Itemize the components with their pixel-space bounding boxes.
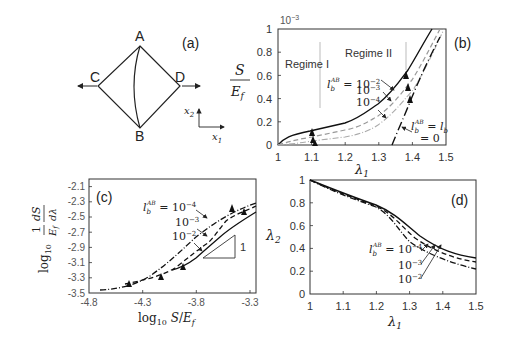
svg-text:0.2: 0.2	[290, 265, 305, 277]
panel-c-ann-1e-2: 10−2	[172, 230, 196, 243]
svg-text:1: 1	[30, 226, 43, 233]
svg-text:dS: dS	[30, 206, 43, 221]
panel-d-label: (d)	[451, 192, 468, 208]
svg-text:0: 0	[299, 288, 305, 300]
svg-text:0: 0	[266, 139, 272, 151]
panel-b-xlabel: λ1	[354, 162, 369, 179]
panel-b-ann-1e-4: 10−4	[356, 96, 381, 109]
panel-d-ann-1e-4: lbAB = 10−4	[369, 241, 423, 258]
svg-text:1.5: 1.5	[438, 151, 453, 163]
panel-b-chart: 0 0.2 0.4 0.6 0.8 1 1 1.1 1.2 1.3 1.4 1.…	[230, 14, 471, 179]
node-d-label: D	[175, 69, 185, 85]
node-b-label: B	[135, 128, 144, 144]
svg-text:1.2: 1.2	[369, 300, 384, 312]
node-c-label: C	[90, 69, 100, 85]
panel-d-xticks: 1 1.1 1.2 1.3 1.4 1.5	[307, 300, 484, 312]
svg-text:dλ: dλ	[47, 208, 58, 221]
panel-b-ylabel-num: S	[235, 62, 245, 78]
panel-b-scale-label: 10−3	[280, 14, 299, 26]
svg-text:-2.3: -2.3	[68, 196, 86, 207]
panel-b-ann-zero-2: = 0	[420, 132, 440, 145]
panel-a-label: (a)	[182, 35, 199, 51]
svg-text:-3.8: -3.8	[188, 297, 206, 308]
axis-x2-label: x2	[184, 105, 195, 119]
panel-d-xlabel: λ1	[387, 314, 402, 331]
svg-text:-3.3: -3.3	[241, 297, 259, 308]
svg-text:0.8: 0.8	[290, 197, 305, 209]
regime-1-label: Regime I	[285, 58, 329, 70]
panel-c-yticks: -2.1 -2.3 -2.5 -2.7 -2.9 -3.1 -3.3 -3.5	[68, 181, 86, 299]
panel-d-ylabel: λ2	[265, 227, 281, 245]
panel-c-xlabel: log10 S/Ef	[138, 311, 197, 327]
svg-text:1: 1	[307, 300, 313, 312]
svg-text:-2.9: -2.9	[68, 242, 86, 253]
slope-label: 1	[240, 241, 246, 253]
svg-text:1.4: 1.4	[435, 300, 450, 312]
panel-d-ann-1e-2: 10−2	[398, 273, 422, 286]
node-a-label: A	[135, 28, 145, 44]
svg-text:Ef: Ef	[47, 225, 60, 237]
panel-c-ylabel: log10 1 Ef dS dλ	[30, 205, 60, 273]
svg-text:-3.1: -3.1	[68, 257, 86, 268]
svg-text:0.6: 0.6	[290, 220, 305, 232]
svg-text:0.4: 0.4	[290, 242, 305, 254]
svg-text:0.8: 0.8	[257, 46, 272, 58]
svg-text:1: 1	[299, 174, 305, 186]
panel-c-ann-1e-3: 10−3	[175, 216, 199, 229]
svg-text:0.6: 0.6	[257, 70, 272, 82]
svg-text:1.1: 1.1	[336, 300, 351, 312]
panel-b-yticks: 0 0.2 0.4 0.6 0.8 1	[257, 23, 272, 151]
svg-text:-2.7: -2.7	[68, 227, 86, 238]
svg-text:1.3: 1.3	[371, 151, 386, 163]
svg-text:-4.3: -4.3	[134, 297, 152, 308]
svg-text:1.5: 1.5	[468, 300, 483, 312]
svg-text:log10: log10	[37, 244, 53, 273]
panel-d-ann-1e-3: 10−3	[398, 259, 422, 272]
svg-text:-2.1: -2.1	[68, 181, 86, 192]
svg-text:1.3: 1.3	[402, 300, 417, 312]
panel-c-chart: -2.1 -2.3 -2.5 -2.7 -2.9 -3.1 -3.3 -3.5 …	[30, 179, 259, 327]
panel-b-ylabel-den: Ef	[230, 84, 246, 101]
axis-x1-label: x1	[212, 131, 222, 145]
svg-text:0.2: 0.2	[257, 116, 272, 128]
svg-text:-2.5: -2.5	[68, 211, 86, 222]
svg-text:1.1: 1.1	[304, 151, 319, 163]
panel-a-diagram: A B C D (a) x2 x1	[78, 28, 224, 145]
svg-text:0.4: 0.4	[257, 93, 272, 105]
panel-b-label: (b)	[454, 35, 471, 51]
panel-d-chart: 0 0.2 0.4 0.6 0.8 1 1 1.1 1.2 1.3 1.4 1.…	[265, 174, 484, 331]
panel-c-ann-1e-4: lbAB = 10−4	[143, 199, 197, 216]
panel-d-yticks: 0 0.2 0.4 0.6 0.8 1	[290, 174, 305, 300]
panel-b-xticks: 1 1.1 1.2 1.3 1.4 1.5	[275, 151, 454, 163]
svg-text:1: 1	[275, 151, 281, 163]
panel-c-label: (c)	[96, 189, 112, 205]
svg-text:1.2: 1.2	[338, 151, 353, 163]
svg-text:1.4: 1.4	[405, 151, 420, 163]
svg-text:1: 1	[266, 23, 272, 35]
svg-text:-4.8: -4.8	[80, 297, 98, 308]
regime-2-label: Regime II	[345, 47, 392, 59]
svg-text:-3.3: -3.3	[68, 272, 86, 283]
panel-c-xticks: -4.8 -4.3 -3.8 -3.3	[80, 297, 259, 308]
figure: A B C D (a) x2 x1 0 0.2 0.4 0.6 0.8 1 1	[0, 0, 505, 343]
